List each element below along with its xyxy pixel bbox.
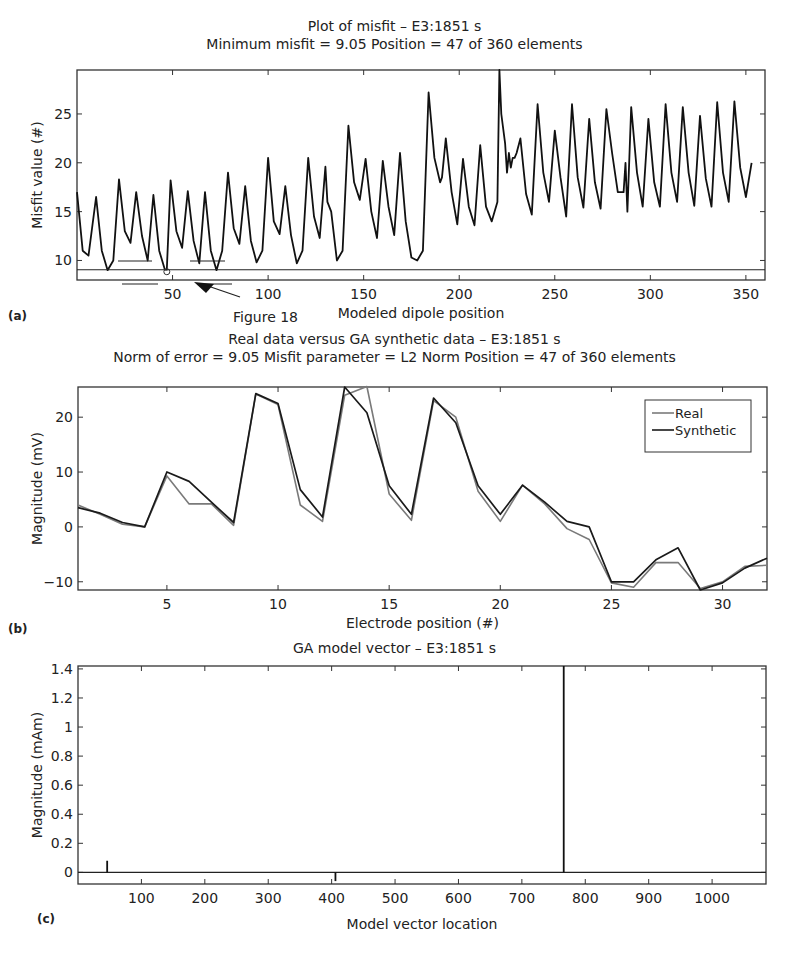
y-tick-label: 0.6 — [51, 777, 73, 793]
y-tick-label: 1 — [64, 719, 73, 735]
x-tick-label: 600 — [445, 890, 472, 906]
x-tick-label: 700 — [509, 890, 536, 906]
y-tick-label: 0.2 — [51, 835, 73, 851]
y-tick-label: 0.4 — [51, 806, 73, 822]
x-tick-label: 100 — [128, 890, 155, 906]
plot-frame — [78, 666, 766, 884]
x-axis-label: Model vector location — [347, 916, 498, 932]
chart-c-panel-label: (c) — [37, 912, 55, 926]
y-tick-label: 0.8 — [51, 748, 73, 764]
x-tick-label: 200 — [191, 890, 218, 906]
x-tick-label: 500 — [382, 890, 409, 906]
x-tick-label: 300 — [255, 890, 282, 906]
y-tick-label: 1.4 — [51, 661, 73, 677]
y-tick-label: 0 — [64, 864, 73, 880]
chart-c-plot: 100200300400500600700800900100000.20.40.… — [0, 0, 789, 955]
y-tick-label: 1.2 — [51, 690, 73, 706]
y-axis-label: Magnitude (mAm) — [29, 712, 45, 838]
x-tick-label: 400 — [318, 890, 345, 906]
x-tick-label: 1000 — [694, 890, 730, 906]
x-tick-label: 800 — [572, 890, 599, 906]
x-tick-label: 900 — [635, 890, 662, 906]
